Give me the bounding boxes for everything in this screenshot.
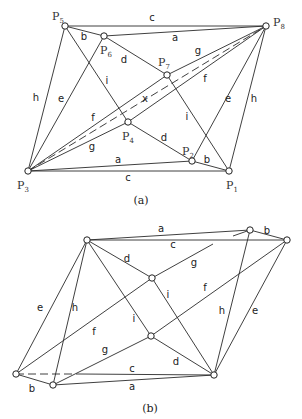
point-label-p3: P3 (17, 179, 29, 194)
edge-label-c: c (125, 172, 131, 183)
edge-label-f: f (203, 73, 207, 84)
edge-b-f-right (151, 240, 287, 336)
edge-label-f: f (203, 282, 207, 293)
edge-label-c: c (149, 12, 155, 23)
point-label-p6: P6 (100, 44, 112, 59)
edge-label-f: f (91, 112, 95, 123)
edge-g-left (28, 122, 128, 171)
edge-label-h: h (219, 305, 225, 316)
edge-label-c: c (170, 239, 176, 250)
point-label-p1: P1 (226, 179, 238, 194)
edge-i-left (65, 26, 128, 122)
node-p6 (101, 33, 107, 39)
edge-label-d: d (161, 132, 167, 143)
edge-b-i-left (87, 240, 151, 336)
edge-label-e: e (58, 93, 64, 104)
edge-label-i: i (167, 289, 170, 300)
edge-label-d: d (121, 54, 127, 65)
node-m1 (149, 275, 155, 281)
caption-b: (b) (142, 402, 158, 415)
node-p1 (226, 168, 232, 174)
edge-label-a: a (115, 154, 121, 165)
edge-b-h-right (214, 230, 250, 375)
figure-b-nodes (13, 227, 290, 388)
edge-label-e: e (225, 93, 231, 104)
point-label-p4: P4 (122, 130, 134, 145)
edge-label-g: g (89, 141, 95, 152)
node-p3 (25, 168, 31, 174)
edge-label-a: a (129, 381, 135, 392)
edge-g-right (167, 26, 266, 75)
figure-a-labels: P1P2P3P4P5P6P7P8cabdgfiehxfdiehgacb (17, 10, 285, 194)
point-label-p8: P8 (273, 16, 285, 31)
node-bl1 (13, 371, 19, 377)
edge-label-g: g (191, 257, 197, 268)
edge-label-h: h (33, 92, 39, 103)
point-label-p2: P2 (182, 145, 194, 160)
edge-label-e: e (252, 305, 258, 316)
diagram-canvas: P1P2P3P4P5P6P7P8cabdgfiehxfdiehgacb abcd… (0, 0, 302, 419)
edge-label-f: f (92, 326, 96, 337)
node-tr2 (284, 237, 290, 243)
edge-label-b: b (29, 383, 35, 394)
node-bl2 (50, 382, 56, 388)
edge-label-b: b (81, 31, 87, 42)
edge-label-g: g (195, 45, 201, 56)
figure-b (16, 230, 287, 385)
node-m2 (148, 333, 154, 339)
edge-label-h: h (72, 302, 78, 313)
edge-b-f-left (16, 278, 152, 374)
edge-b-a-top (87, 230, 250, 240)
edge-label-i: i (186, 111, 189, 122)
edge-label-d: d (124, 253, 130, 264)
point-label-p5: P5 (52, 10, 64, 25)
edge-label-d: d (173, 356, 179, 367)
node-br (211, 372, 217, 378)
node-tl (84, 237, 90, 243)
node-tr1 (247, 227, 253, 233)
caption-a: (a) (133, 194, 148, 207)
edge-label-e: e (37, 302, 43, 313)
node-p8 (263, 23, 269, 29)
edge-a-bottom (28, 161, 192, 171)
edge-label-c: c (129, 363, 135, 374)
edge-label-g: g (102, 344, 108, 355)
edge-a-top (104, 26, 266, 36)
node-p4 (125, 119, 131, 125)
edge-i-right (167, 75, 229, 171)
edge-label-h: h (251, 93, 257, 104)
edge-b-h-left (53, 240, 87, 385)
edge-label-a: a (158, 223, 164, 234)
edge-b-d-bottom (151, 336, 214, 375)
node-p7 (164, 72, 170, 78)
edge-label-b: b (204, 154, 210, 165)
edge-label-i: i (133, 313, 136, 324)
edge-label-a: a (172, 32, 178, 43)
edge-label-i: i (106, 75, 109, 86)
point-label-p7: P7 (158, 56, 170, 71)
edge-label-b: b (264, 225, 270, 236)
figure-b-labels: abcdgifheehfigcdab (29, 223, 270, 394)
edge-b-c-bottom (80, 374, 214, 375)
edge-b-d-top (87, 240, 152, 278)
edge-b-g-top (152, 244, 213, 278)
edge-label-x: x (142, 93, 148, 104)
